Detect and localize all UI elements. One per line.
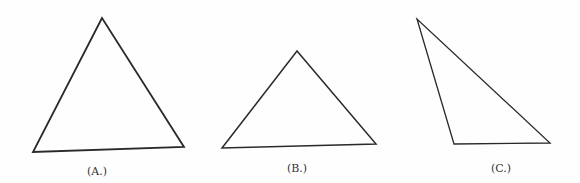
- label-b: (B.): [287, 162, 307, 175]
- triangle-figures-diagram: (A.) (B.) (C.): [0, 0, 580, 183]
- triangle-b: [222, 51, 376, 148]
- triangle-c: [417, 19, 550, 144]
- label-a: (A.): [87, 165, 107, 178]
- label-c: (C.): [491, 162, 511, 175]
- triangles-svg: [0, 0, 580, 183]
- triangle-a: [33, 18, 184, 152]
